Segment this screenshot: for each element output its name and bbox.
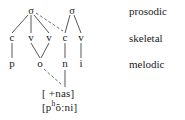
melodic-node-o: o: [30, 58, 50, 69]
skeletal-node-v1: v: [21, 32, 41, 43]
tier-label-melodic: melodic: [129, 58, 164, 70]
skeletal-node-v3: v: [71, 32, 91, 43]
autosegmental-diagram: σ σ c v v c v p o n i [ +nas] [phõːni] p…: [0, 0, 185, 120]
transcription-open: [p: [42, 101, 52, 113]
association-line-sigma1-c1: [12, 15, 28, 33]
tier-label-prosodic: prosodic: [129, 5, 167, 17]
skeletal-node-c1: c: [2, 32, 22, 43]
nasal-feature-bracket: [ +nas]: [0, 87, 185, 99]
prosodic-node-sigma1: σ: [21, 5, 41, 16]
melodic-node-i: i: [71, 58, 91, 69]
solid-association-lines: [12, 15, 81, 87]
association-line-v2-o: [41, 43, 49, 58]
tier-label-skeletal: skeletal: [129, 32, 163, 44]
association-line-v1-o: [31, 43, 40, 58]
phonetic-transcription: [phõːni]: [0, 101, 185, 113]
dashed-association-line-o-feature: [44, 69, 62, 85]
prosodic-node-sigma2: σ: [62, 5, 82, 16]
transcription-rest: õːni]: [56, 101, 78, 113]
melodic-node-p: p: [2, 58, 22, 69]
dashed-association-lines: [36, 13, 63, 85]
